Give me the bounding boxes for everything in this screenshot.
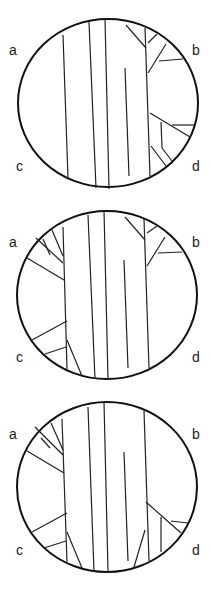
panel-1-label-b: b [192, 42, 200, 58]
panel-2-label-b: b [192, 234, 200, 250]
diagram-canvas: a b c d a b c d a b c d [0, 0, 211, 605]
panel-3-lines [27, 402, 188, 572]
panel-2-label-d: d [192, 349, 200, 365]
panel-1-line-1 [63, 35, 68, 178]
panel-2-line-9 [158, 252, 182, 253]
panel-3-label-d: d [192, 542, 200, 558]
panel-3-line-7 [41, 438, 50, 448]
panel-1-label-c: c [16, 158, 23, 174]
panel-2-line-5 [144, 219, 149, 368]
panel-2-line-2 [88, 215, 95, 379]
panel-3-label-a: a [9, 426, 17, 442]
panel-3-line-2 [88, 407, 94, 572]
panel-2-line-11 [43, 239, 50, 255]
panel-2-line-4 [124, 260, 128, 368]
panel-1-line-5 [145, 28, 150, 176]
panel-1-line-2 [89, 22, 96, 188]
panel-2-line-10 [36, 238, 63, 263]
panel-2-line-13 [27, 258, 64, 280]
panel-3-line-11 [44, 541, 66, 548]
panel-1-line-9 [159, 59, 183, 61]
panel-3-line-16 [134, 530, 145, 567]
panel-1-line-6 [126, 25, 146, 48]
panel-2-line-7 [147, 226, 157, 233]
panel-1-line-4 [125, 68, 129, 176]
panel-1-line-14 [151, 146, 166, 166]
panel-1-label-a: a [9, 42, 17, 58]
panel-1-line-8 [148, 44, 166, 73]
panel-3: a b c d [9, 402, 200, 572]
panel-3-line-9 [27, 451, 64, 473]
panel-2-line-3 [104, 210, 108, 379]
panel-1-line-12 [162, 148, 172, 161]
panel-3-line-3 [104, 402, 108, 572]
panel-3-line-13 [146, 502, 181, 533]
panel-3-line-15 [171, 521, 188, 523]
panel-2-label-a: a [9, 234, 17, 250]
panel-1-label-d: d [192, 158, 200, 174]
panel-2: a b c d [9, 210, 200, 379]
panel-2-line-8 [147, 237, 165, 266]
panel-2-line-12 [52, 230, 63, 256]
panel-3-line-12 [67, 532, 82, 568]
panel-1: a b c d [9, 19, 200, 189]
panel-1-lines [63, 19, 194, 189]
panel-2-line-6 [125, 217, 145, 240]
panel-1-line-11 [161, 122, 162, 148]
panel-3-label-c: c [16, 542, 23, 558]
panel-2-label-c: c [16, 349, 23, 365]
panel-3-label-b: b [192, 426, 200, 442]
panel-2-lines [27, 210, 182, 379]
panel-2-line-15 [45, 347, 66, 354]
panel-3-line-4 [124, 452, 128, 561]
panel-3-line-8 [51, 423, 63, 450]
panel-3-line-5 [144, 411, 149, 561]
panel-3-line-10 [32, 513, 67, 532]
panel-3-line-1 [62, 419, 67, 562]
panel-2-line-14 [32, 321, 67, 340]
panel-1-line-3 [105, 19, 109, 189]
panel-1-line-7 [148, 34, 157, 43]
